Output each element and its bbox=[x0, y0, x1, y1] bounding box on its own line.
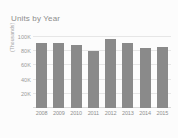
bar[interactable] bbox=[71, 45, 82, 108]
bar[interactable] bbox=[105, 39, 116, 108]
bar-slot bbox=[85, 30, 102, 108]
bar[interactable] bbox=[140, 48, 151, 108]
x-tick-label: 2009 bbox=[50, 110, 67, 116]
y-tick-label: 80K bbox=[21, 48, 31, 54]
x-tick-label: 2011 bbox=[85, 110, 102, 116]
y-tick-label: 100K bbox=[18, 34, 31, 40]
bar-slot bbox=[119, 30, 136, 108]
bar-slot bbox=[102, 30, 119, 108]
x-axis-tick-labels: 20082009201020112012201320142015 bbox=[33, 110, 171, 116]
x-tick-label: 2012 bbox=[102, 110, 119, 116]
x-tick-label: 2008 bbox=[33, 110, 50, 116]
bar[interactable] bbox=[36, 43, 47, 108]
bar-slot bbox=[154, 30, 171, 108]
bar-slot bbox=[50, 30, 67, 108]
bar-series bbox=[33, 30, 171, 108]
bar-slot bbox=[137, 30, 154, 108]
y-tick-label: 20K bbox=[21, 91, 31, 97]
bar-slot bbox=[33, 30, 50, 108]
plot-area bbox=[33, 30, 171, 108]
x-tick-label: 2015 bbox=[154, 110, 171, 116]
y-tick-label: 40K bbox=[21, 77, 31, 83]
bar[interactable] bbox=[157, 47, 168, 108]
chart-card: Units by Year (Thousands) 20K40K60K80K10… bbox=[0, 0, 178, 138]
y-axis-tick-labels: 20K40K60K80K100K bbox=[11, 30, 31, 108]
y-tick-label: 60K bbox=[21, 62, 31, 68]
chart-title: Units by Year bbox=[11, 14, 60, 23]
x-tick-label: 2013 bbox=[119, 110, 136, 116]
x-tick-label: 2010 bbox=[68, 110, 85, 116]
bar[interactable] bbox=[122, 43, 133, 108]
bar-slot bbox=[68, 30, 85, 108]
bar[interactable] bbox=[88, 51, 99, 108]
x-tick-label: 2014 bbox=[137, 110, 154, 116]
bar[interactable] bbox=[53, 43, 64, 108]
